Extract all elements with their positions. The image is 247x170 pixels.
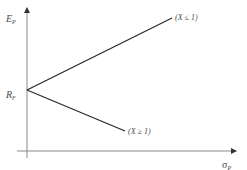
upper-line bbox=[27, 18, 172, 90]
x-axis-label: σP bbox=[222, 155, 231, 170]
intercept-label-sub: F bbox=[12, 95, 16, 101]
lower-line bbox=[27, 90, 125, 131]
intercept-label: RF bbox=[6, 85, 16, 101]
x-axis-label-sub: P bbox=[227, 165, 231, 170]
lower-line-label: (X ≥ 1) bbox=[128, 128, 151, 136]
diagram-canvas bbox=[0, 0, 247, 170]
upper-line-label: (X ≤ 1) bbox=[175, 14, 198, 22]
y-axis-label: EP bbox=[6, 9, 16, 25]
y-axis-label-sub: P bbox=[12, 19, 16, 25]
